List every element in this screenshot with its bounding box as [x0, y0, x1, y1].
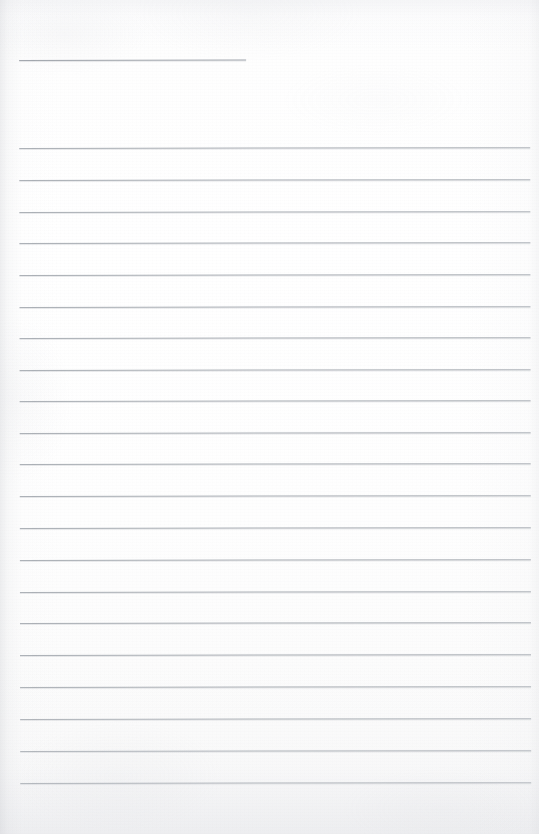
rule-10 — [20, 432, 531, 434]
rule-21 — [20, 782, 531, 784]
rule-17 — [20, 654, 531, 656]
rule-20 — [20, 750, 531, 752]
rule-8 — [20, 369, 531, 371]
rule-6 — [19, 306, 530, 308]
header-rule — [19, 60, 246, 61]
scanned-page — [0, 0, 539, 834]
rule-14 — [20, 559, 531, 561]
rule-15 — [20, 591, 531, 593]
rule-1 — [19, 147, 530, 149]
rule-4 — [19, 242, 530, 244]
ruled-lines-layer — [0, 0, 539, 834]
rule-9 — [20, 400, 531, 402]
rule-12 — [20, 495, 531, 497]
rule-3 — [19, 211, 530, 213]
rule-13 — [20, 527, 531, 529]
rule-11 — [20, 463, 531, 465]
rule-2 — [19, 179, 530, 181]
rule-5 — [19, 274, 530, 276]
rule-19 — [20, 718, 531, 720]
rule-16 — [20, 622, 531, 624]
rule-7 — [20, 337, 531, 339]
rule-18 — [20, 686, 531, 688]
